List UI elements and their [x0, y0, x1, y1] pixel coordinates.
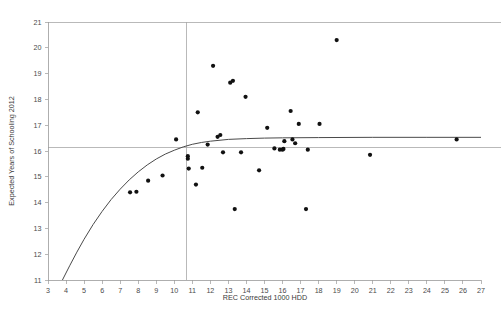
x-tick-label: 5 [82, 286, 86, 295]
y-tick-label: 21 [34, 18, 42, 27]
axis-ticks [45, 22, 482, 284]
y-tick-label: 12 [34, 250, 42, 259]
data-point [146, 179, 150, 183]
data-point [289, 109, 293, 113]
x-tick-label: 24 [423, 286, 431, 295]
y-tick-label: 13 [34, 224, 42, 233]
x-tick-label: 11 [189, 286, 196, 295]
data-point [134, 190, 138, 194]
data-point [128, 190, 132, 194]
data-point [206, 142, 210, 146]
y-tick-label: 16 [34, 147, 42, 156]
data-point [455, 137, 459, 141]
y-axis-title: Expected Years of Schooling 2012 [7, 96, 16, 206]
data-point [231, 79, 235, 83]
data-point [233, 207, 237, 211]
data-point [187, 166, 191, 170]
chart-axes [48, 22, 481, 280]
y-tick-label: 19 [34, 69, 42, 78]
data-point [160, 173, 164, 177]
data-point [368, 153, 372, 157]
x-tick-label: 26 [459, 286, 467, 295]
x-tick-label: 7 [118, 286, 122, 295]
x-tick-label: 10 [170, 286, 178, 295]
y-tick-label: 17 [34, 121, 42, 130]
x-tick-label: 23 [405, 286, 413, 295]
data-point [281, 147, 285, 151]
data-point [218, 133, 222, 137]
data-point [211, 64, 215, 68]
data-point [239, 150, 243, 154]
x-tick-label: 8 [136, 286, 140, 295]
data-point [221, 150, 225, 154]
x-tick-label: 21 [369, 286, 377, 295]
data-point [200, 166, 204, 170]
x-tick-label: 6 [100, 286, 104, 295]
data-point [282, 139, 286, 143]
data-point [317, 122, 321, 126]
data-point [265, 126, 269, 130]
data-point [297, 122, 301, 126]
data-point [186, 157, 190, 161]
y-tick-label: 18 [34, 95, 42, 104]
data-point [335, 38, 339, 42]
reference-lines [48, 22, 501, 280]
data-points [128, 38, 459, 211]
x-tick-label: 9 [154, 286, 158, 295]
x-tick-label: 25 [441, 286, 449, 295]
data-point [304, 207, 308, 211]
axis-tick-labels: 3456789101112131415161718192021222324252… [34, 18, 486, 295]
data-point [257, 168, 261, 172]
y-tick-label: 14 [34, 198, 42, 207]
x-tick-label: 19 [333, 286, 341, 295]
x-axis-title: REC Corrected 1000 HDD [223, 293, 307, 302]
chart-plot-area: 3456789101112131415161718192021222324252… [0, 0, 503, 314]
regression-curve [62, 137, 481, 280]
data-point [306, 148, 310, 152]
data-point [293, 141, 297, 145]
x-tick-label: 20 [351, 286, 359, 295]
fit-curve [62, 137, 481, 280]
data-point [290, 137, 294, 141]
y-tick-label: 11 [34, 276, 41, 285]
data-point [194, 182, 198, 186]
data-point [272, 146, 276, 150]
data-point [174, 137, 178, 141]
scatter-chart: 3456789101112131415161718192021222324252… [0, 0, 503, 314]
x-tick-label: 22 [387, 286, 395, 295]
x-tick-label: 27 [477, 286, 485, 295]
data-point [196, 110, 200, 114]
x-tick-label: 4 [64, 286, 68, 295]
y-tick-label: 15 [34, 172, 42, 181]
y-tick-label: 20 [34, 43, 42, 52]
x-tick-label: 3 [46, 286, 50, 295]
x-tick-label: 18 [315, 286, 323, 295]
x-tick-label: 12 [206, 286, 214, 295]
data-point [243, 95, 247, 99]
